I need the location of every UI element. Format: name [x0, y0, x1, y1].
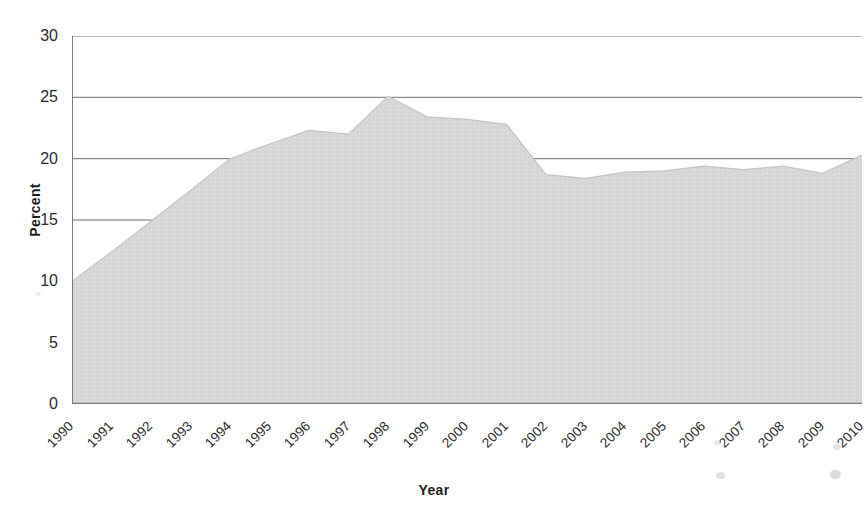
y-tick-label: 15	[12, 212, 58, 228]
area-fill	[72, 96, 862, 404]
x-tick-label: 1991	[84, 418, 116, 450]
x-tick-label: 2008	[755, 418, 787, 450]
x-tick-label: 2006	[676, 418, 708, 450]
chart-figure: Percent 051015202530 1990199119921993199…	[0, 0, 868, 511]
y-axis-title: Percent	[27, 150, 43, 270]
area-chart-svg	[72, 36, 862, 404]
x-tick-label: 1999	[400, 418, 432, 450]
y-tick-label: 0	[12, 396, 58, 412]
x-tick-label: 1997	[321, 418, 353, 450]
x-tick-label: 2003	[558, 418, 590, 450]
x-tick-label: 2005	[637, 418, 669, 450]
chart-title-clipped	[0, 0, 868, 5]
x-tick-label: 2000	[439, 418, 471, 450]
x-tick-label: 1992	[123, 418, 155, 450]
x-tick-label: 1996	[281, 418, 313, 450]
y-tick-label: 25	[12, 89, 58, 105]
x-axis-title: Year	[0, 482, 868, 498]
x-tick-label: 1994	[202, 418, 234, 450]
data-series-area	[72, 96, 862, 404]
plot-area	[72, 36, 862, 404]
x-tick-label: 2001	[479, 418, 511, 450]
y-tick-label: 5	[12, 335, 58, 351]
x-tick-label: 2002	[518, 418, 550, 450]
x-tick-label: 2010	[834, 418, 866, 450]
y-tick-label: 30	[12, 28, 58, 44]
x-tick-label: 1990	[44, 418, 76, 450]
x-tick-label: 2007	[716, 418, 748, 450]
x-axis-tick-labels: 1990199119921993199419951996199719981999…	[0, 414, 868, 474]
x-tick-label: 1993	[163, 418, 195, 450]
y-tick-label: 10	[12, 273, 58, 289]
y-tick-label: 20	[12, 151, 58, 167]
x-tick-label: 1998	[360, 418, 392, 450]
scan-artifact	[36, 292, 41, 296]
x-tick-label: 2004	[597, 418, 629, 450]
x-tick-label: 2009	[795, 418, 827, 450]
x-tick-label: 1995	[242, 418, 274, 450]
